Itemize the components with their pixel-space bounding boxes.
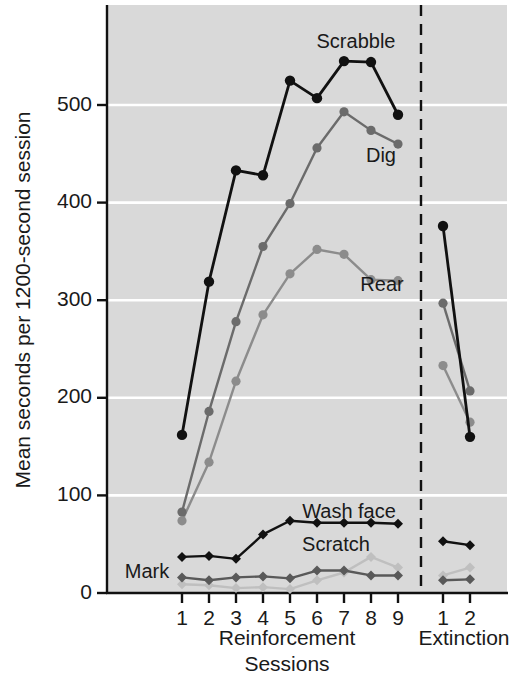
data-point xyxy=(231,377,240,386)
data-point xyxy=(339,107,348,116)
data-point xyxy=(465,386,474,395)
y-tick-label: 300 xyxy=(57,287,92,310)
data-point xyxy=(366,57,376,67)
data-point xyxy=(258,170,268,180)
y-tick-label: 500 xyxy=(57,92,92,115)
series-label: Rear xyxy=(360,273,404,295)
x-tick-label: 1 xyxy=(176,606,188,629)
data-point xyxy=(393,110,403,120)
data-point xyxy=(312,93,322,103)
data-point xyxy=(312,143,321,152)
data-point xyxy=(366,126,375,135)
y-tick-label: 0 xyxy=(80,580,92,603)
data-point xyxy=(177,507,186,516)
data-point xyxy=(285,269,294,278)
line-chart: 0100200300400500 12345678912 ScrabbleDig… xyxy=(0,0,532,682)
x-tick-label: 8 xyxy=(365,606,377,629)
data-point xyxy=(231,317,240,326)
data-point xyxy=(438,361,447,370)
data-point xyxy=(177,516,186,525)
data-point xyxy=(204,458,213,467)
series-label: Scratch xyxy=(302,533,370,555)
data-point xyxy=(465,432,475,442)
data-point xyxy=(231,165,241,175)
data-point xyxy=(177,430,187,440)
series-label: Mark xyxy=(125,560,170,582)
series-label: Scrabble xyxy=(317,30,396,52)
x-tick-label: 9 xyxy=(392,606,404,629)
data-point xyxy=(204,276,214,286)
phase-label-reinforcement: Reinforcement xyxy=(219,626,356,649)
data-point xyxy=(258,242,267,251)
data-point xyxy=(339,250,348,259)
x-tick-label: 2 xyxy=(203,606,215,629)
phase-label-extinction: Extinction xyxy=(418,626,509,649)
x-axis-title: Sessions xyxy=(244,652,329,675)
series-label: Wash face xyxy=(302,500,396,522)
data-point xyxy=(312,245,321,254)
data-point xyxy=(438,299,447,308)
data-point xyxy=(285,75,295,85)
data-point xyxy=(258,310,267,319)
data-point xyxy=(285,199,294,208)
y-tick-label: 400 xyxy=(57,189,92,212)
data-point xyxy=(339,56,349,66)
data-point xyxy=(438,221,448,231)
y-tick-label: 100 xyxy=(57,482,92,505)
y-axis-title: Mean seconds per 1200-second session xyxy=(11,111,34,488)
y-tick-label: 200 xyxy=(57,384,92,407)
chart-figure: 0100200300400500 12345678912 ScrabbleDig… xyxy=(0,0,532,682)
series-label: Dig xyxy=(366,144,396,166)
data-point xyxy=(204,407,213,416)
